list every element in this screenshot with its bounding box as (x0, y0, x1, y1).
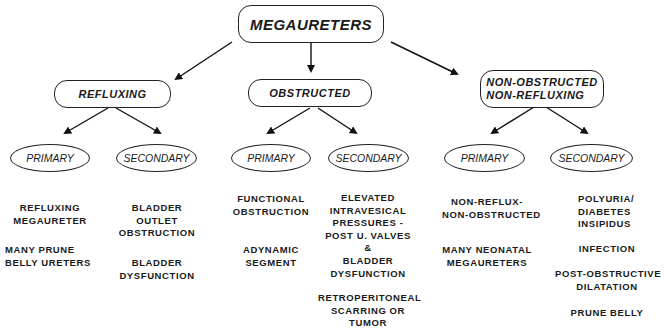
cause-text: BLADDER OUTLET OBSTRUCTION (112, 202, 202, 240)
cause-text: RETROPERITONEAL SCARRING OR TUMOR (318, 292, 418, 330)
cause-text: ADYNAMIC SEGMENT (228, 244, 314, 269)
subtype-label: SECONDARY (123, 152, 189, 164)
cause-text: BLADDER DYSFUNCTION (112, 257, 202, 282)
cause-text: FUNCTIONAL OBSTRUCTION (228, 193, 314, 218)
category-non-obstructed-non-refluxing: NON-OBSTRUCTED NON-REFLUXING (480, 70, 604, 108)
cause-text: MANY NEONATAL MEGAURETERS (442, 244, 532, 269)
cause-text: ELEVATED INTRAVESICAL PRESSURES - POST U… (318, 192, 418, 280)
cause-text: NON-REFLUX- NON-OBSTRUCTED (442, 196, 532, 221)
cause-text: INFECTION (555, 243, 659, 256)
subtype-refluxing-primary: PRIMARY (10, 144, 90, 172)
subtype-label: PRIMARY (247, 152, 294, 164)
cause-text: POST-OBSTRUCTIVE DILATATION (555, 268, 659, 293)
subtype-refluxing-secondary: SECONDARY (116, 144, 197, 172)
cause-text: PRUNE BELLY (555, 307, 659, 320)
category-label: OBSTRUCTED (269, 87, 350, 100)
category-refluxing: REFLUXING (54, 80, 171, 108)
subtype-label: SECONDARY (335, 152, 401, 164)
root-label: MEGAURETERS (250, 16, 372, 33)
cause-text: REFLUXING MEGAURETER (10, 202, 90, 227)
subtype-label: SECONDARY (558, 152, 624, 164)
cause-text: POLYURIA/ DIABETES INSIPIDUS (578, 193, 658, 231)
category-label: NON-OBSTRUCTED NON-REFLUXING (486, 76, 598, 102)
subtype-non-obstructed-primary: PRIMARY (444, 144, 525, 172)
subtype-obstructed-secondary: SECONDARY (328, 144, 409, 172)
subtype-label: PRIMARY (461, 152, 508, 164)
subtype-obstructed-primary: PRIMARY (231, 144, 311, 172)
root-node-megaureters: MEGAURETERS (238, 5, 384, 43)
category-obstructed: OBSTRUCTED (248, 79, 372, 107)
cause-text: MANY PRUNE BELLY URETERS (5, 244, 95, 269)
category-label: REFLUXING (78, 88, 146, 101)
subtype-label: PRIMARY (26, 152, 73, 164)
subtype-non-obstructed-secondary: SECONDARY (550, 144, 633, 172)
